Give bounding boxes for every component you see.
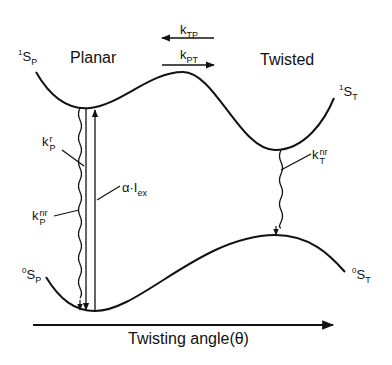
- k-p-r-label: krP: [42, 134, 56, 152]
- s1-curve: [36, 72, 334, 150]
- s0-curve: [46, 235, 345, 311]
- excitation-pointer: [97, 186, 120, 200]
- state-1st-label: 1ST: [339, 85, 358, 98]
- state-0st-label: 0ST: [352, 268, 371, 281]
- k-p-nr-pointer: [54, 210, 79, 216]
- k-t-nr-pointer: [281, 154, 311, 170]
- state-1sp-label: 1SP: [18, 50, 37, 63]
- k-p-nr-label: knrP: [32, 208, 48, 226]
- k-pt-label: kPT: [180, 48, 198, 61]
- k-tp-label: kTP: [180, 23, 198, 36]
- planar-label: Planar: [70, 50, 116, 66]
- x-axis-label: Twisting angle(θ): [128, 331, 249, 347]
- k-t-nr-wavy-line: [280, 150, 283, 228]
- k-t-nr-label: knrT: [312, 147, 328, 165]
- excitation-label: α·Iex: [122, 181, 147, 194]
- state-0sp-label: 0SP: [22, 268, 41, 281]
- k-p-nr-wavy-line: [79, 108, 82, 298]
- twisted-label: Twisted: [260, 52, 314, 68]
